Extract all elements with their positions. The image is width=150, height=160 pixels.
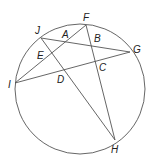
label-point-b: B <box>94 33 101 44</box>
label-point-f: F <box>83 12 90 23</box>
label-point-d: D <box>57 74 64 85</box>
label-point-i: I <box>8 79 11 90</box>
chord-JH <box>41 38 115 140</box>
chords <box>15 25 130 140</box>
geometry-diagram: FJGIHABCDE <box>0 0 150 160</box>
label-point-e: E <box>37 50 44 61</box>
chord-JG <box>41 38 130 52</box>
label-point-h: H <box>111 144 119 155</box>
label-point-c: C <box>99 62 107 73</box>
label-point-j: J <box>34 25 41 36</box>
label-point-a: A <box>61 29 69 40</box>
chord-IG <box>15 52 130 83</box>
label-point-g: G <box>133 44 141 55</box>
circle <box>15 24 145 154</box>
